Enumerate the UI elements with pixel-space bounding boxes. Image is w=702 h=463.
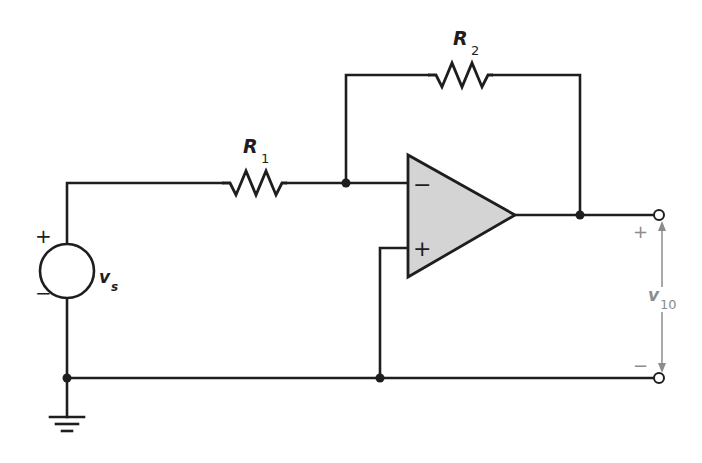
wire-source-to-r1 (67, 183, 222, 244)
output-minus-sign: − (633, 355, 648, 376)
junction-output (576, 211, 585, 220)
output-voltage-subscript: 10 (660, 297, 677, 312)
r1-label-subscript: 1 (261, 151, 269, 166)
r2-label: R (453, 27, 468, 49)
output-voltage-label: v (648, 285, 660, 305)
source-label: v (99, 267, 111, 287)
r1-label: R (243, 135, 258, 157)
output-terminal-top (654, 210, 664, 220)
resistor-r1-icon (222, 171, 287, 195)
source-plus-sign: + (35, 224, 52, 248)
junction-ground-noninverting (376, 374, 385, 383)
r2-label-subscript: 2 (471, 43, 479, 58)
wires (67, 75, 654, 417)
wire-feedback-right (493, 75, 580, 215)
resistor-r2-icon (428, 63, 493, 87)
opamp-noninverting-sign: + (413, 236, 431, 261)
opamp-inverting-sign: − (413, 172, 431, 197)
source-minus-sign: − (35, 281, 52, 305)
output-plus-sign: + (633, 221, 648, 242)
junction-ground-left (63, 374, 72, 383)
inverting-amplifier-schematic: − + + − v s R 1 R 2 + − v 10 (0, 0, 702, 463)
junction-inverting-input (342, 179, 351, 188)
source-label-subscript: s (111, 280, 118, 294)
output-terminal-bottom (654, 373, 664, 383)
wire-noninverting-to-ground (380, 248, 408, 378)
ground-icon (50, 417, 84, 431)
